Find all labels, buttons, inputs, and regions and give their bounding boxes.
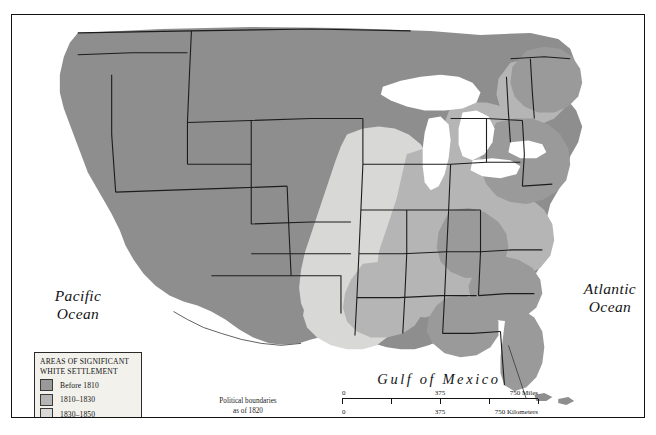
scale-miles-line [342, 398, 538, 405]
boundary-note-line1: Political boundaries [200, 397, 296, 407]
scale-miles-labels: 0 375 750 Miles [342, 389, 538, 398]
legend-title-line1: AREAS OF SIGNIFICANT [40, 357, 137, 367]
scale-kilometers-min: 0 [342, 408, 346, 416]
scale-kilometers-labels: 0 375 750 Kilometers [342, 408, 538, 417]
pacific-ocean-line2: Ocean [28, 305, 128, 323]
pacific-ocean-label: Pacific Ocean [28, 287, 128, 324]
atlantic-ocean-line1: Atlantic [560, 280, 645, 298]
legend-label-1810-1830: 1810–1830 [60, 395, 95, 404]
pacific-ocean-line1: Pacific [28, 287, 128, 305]
scale-kilometers-mid: 375 [435, 408, 446, 416]
atlantic-ocean-line2: Ocean [560, 298, 645, 316]
historical-settlement-map: Pacific Ocean Atlantic Ocean Gulf of Mex… [0, 0, 656, 435]
scale-miles-mid: 375 [435, 389, 446, 397]
legend-label-before-1810: Before 1810 [60, 381, 99, 390]
map-legend: AREAS OF SIGNIFICANT WHITE SETTLEMENT Be… [34, 352, 142, 418]
scale-bar-miles: 0 375 750 Miles [342, 389, 538, 408]
legend-swatch-before-1810 [40, 379, 53, 391]
legend-title: AREAS OF SIGNIFICANT WHITE SETTLEMENT [40, 357, 137, 376]
scale-miles-max: 750 Miles [510, 389, 538, 397]
scale-miles-tick-1 [391, 399, 392, 404]
scale-miles-tick-4 [538, 399, 539, 404]
legend-swatch-1810-1830 [40, 394, 53, 406]
political-boundaries-note: Political boundaries as of 1820 [200, 397, 296, 416]
legend-label-1830-1850: 1830–1850 [60, 410, 95, 418]
legend-item-1830-1850: 1830–1850 [40, 408, 137, 418]
map-frame: Pacific Ocean Atlantic Ocean Gulf of Mex… [11, 14, 645, 418]
scale-miles-tick-3 [489, 399, 490, 404]
gulf-of-mexico-label: Gulf of Mexico [344, 371, 534, 388]
scale-miles-tick-2 [440, 399, 441, 404]
legend-item-before-1810: Before 1810 [40, 379, 137, 391]
legend-swatch-1830-1850 [40, 408, 53, 418]
scale-miles-tick-0 [342, 399, 343, 404]
boundary-note-line2: as of 1820 [200, 407, 296, 417]
scale-bar-kilometers: 0 375 750 Kilometers [342, 408, 538, 418]
scale-bars: 0 375 750 Miles 0 375 750 Kilometers [342, 389, 538, 418]
scale-miles-min: 0 [342, 389, 346, 397]
atlantic-ocean-label: Atlantic Ocean [560, 280, 645, 317]
legend-item-1810-1830: 1810–1830 [40, 394, 137, 406]
legend-title-line2: WHITE SETTLEMENT [40, 367, 137, 377]
scale-kilometers-max: 750 Kilometers [495, 408, 538, 416]
